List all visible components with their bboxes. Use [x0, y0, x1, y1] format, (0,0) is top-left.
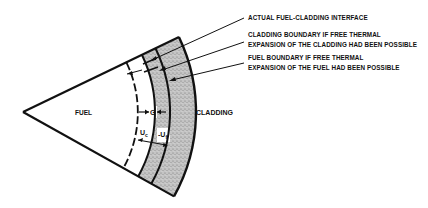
annotation-fuel-boundary-line1: FUEL BOUNDARY IF FREE THERMAL	[248, 54, 363, 61]
annotation-cladding-boundary-line1: CLADDING BOUNDARY IF FREE THERMAL	[248, 31, 381, 38]
arrowhead	[138, 138, 143, 142]
arrowhead	[127, 71, 133, 75]
fuel-cladding-diagram: FUEL CLADDING G Uc -Uf ACTUAL FUEL-CLADD…	[0, 0, 428, 208]
annotation-actual-interface: ACTUAL FUEL-CLADDING INTERFACE	[248, 14, 368, 21]
fuel-boundary-dashed-arc	[123, 63, 137, 168]
gap-label: G	[150, 109, 156, 116]
annotation-cladding-boundary-line2: EXPANSION OF THE CLADDING HAD BEEN POSSI…	[248, 41, 417, 48]
fuel-label: FUEL	[75, 109, 92, 116]
arrowhead	[145, 110, 149, 115]
leader-line-actual-interface	[152, 18, 244, 60]
annotation-fuel-boundary-line2: EXPANSION OF THE FUEL HAD BEEN POSSIBLE	[248, 64, 400, 71]
cladding-label: CLADDING	[196, 109, 233, 116]
uc-label: Uc	[140, 129, 148, 138]
